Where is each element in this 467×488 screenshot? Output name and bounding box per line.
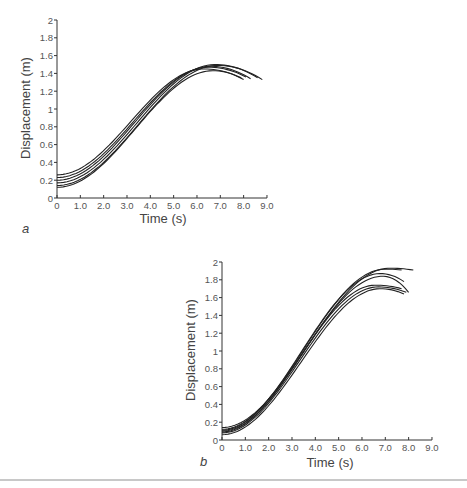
x-tick-label: 6.0 xyxy=(190,200,203,211)
y-tick-label: 1.8 xyxy=(40,32,53,43)
y-tick-label: 1 xyxy=(213,346,218,357)
x-tick-label: 8.0 xyxy=(237,200,250,211)
chart-a: 01.02.03.04.05.06.07.08.09.000.20.40.60.… xyxy=(18,15,274,237)
data-series-line xyxy=(222,268,413,427)
x-tick-label: 3.0 xyxy=(120,200,133,211)
x-tick-label: 2.0 xyxy=(262,442,275,453)
data-series-line xyxy=(222,274,404,431)
y-tick-label: 1 xyxy=(48,104,53,115)
y-tick-label: 1.6 xyxy=(205,292,218,303)
y-tick-label: 0.4 xyxy=(40,157,53,168)
panel-label: b xyxy=(200,454,207,469)
data-series-line xyxy=(222,269,402,429)
x-axis-title: Time (s) xyxy=(139,211,186,226)
x-axis-title: Time (s) xyxy=(306,455,353,470)
x-tick-label: 0 xyxy=(54,200,59,211)
x-tick-label: 5.0 xyxy=(332,442,345,453)
x-tick-label: 0 xyxy=(219,442,224,453)
data-series-line xyxy=(57,65,262,185)
y-tick-label: 0.2 xyxy=(40,175,53,186)
data-series-line xyxy=(222,285,402,432)
data-series-line xyxy=(57,71,244,188)
data-series-line xyxy=(222,289,404,435)
figure-canvas: 01.02.03.04.05.06.07.08.09.000.20.40.60.… xyxy=(0,0,467,488)
x-tick-label: 7.0 xyxy=(379,442,392,453)
x-tick-label: 9.0 xyxy=(425,442,438,453)
x-tick-label: 9.0 xyxy=(260,200,273,211)
y-tick-label: 0.6 xyxy=(205,381,218,392)
y-tick-label: 1.2 xyxy=(40,86,53,97)
data-series-line xyxy=(222,287,406,433)
y-tick-label: 0 xyxy=(213,435,218,446)
x-tick-label: 4.0 xyxy=(309,442,322,453)
chart-b: 01.02.03.04.05.06.07.08.09.000.20.40.60.… xyxy=(183,257,439,471)
data-series-line xyxy=(57,66,251,180)
y-tick-label: 2 xyxy=(213,257,218,268)
y-tick-label: 1.8 xyxy=(205,274,218,285)
y-axis-title: Displacement (m) xyxy=(18,57,33,159)
x-tick-label: 1.0 xyxy=(239,442,252,453)
x-tick-label: 5.0 xyxy=(167,200,180,211)
x-tick-label: 1.0 xyxy=(74,200,87,211)
data-series-line xyxy=(57,65,258,183)
y-axis-title: Displacement (m) xyxy=(183,299,198,401)
y-tick-label: 1.6 xyxy=(40,50,53,61)
y-tick-label: 1.4 xyxy=(40,68,53,79)
y-tick-label: 0 xyxy=(48,193,53,204)
data-series-line xyxy=(57,69,241,175)
y-tick-label: 0.8 xyxy=(40,121,53,132)
y-tick-label: 0.4 xyxy=(205,399,218,410)
x-tick-label: 4.0 xyxy=(144,200,157,211)
y-tick-label: 0.8 xyxy=(205,363,218,374)
y-tick-label: 0.2 xyxy=(205,417,218,428)
x-tick-label: 6.0 xyxy=(355,442,368,453)
y-tick-label: 1.2 xyxy=(205,328,218,339)
data-series-line xyxy=(57,67,246,177)
x-tick-label: 3.0 xyxy=(285,442,298,453)
x-tick-label: 2.0 xyxy=(97,200,110,211)
y-tick-label: 2 xyxy=(48,15,53,26)
y-tick-label: 1.4 xyxy=(205,310,218,321)
x-tick-label: 7.0 xyxy=(214,200,227,211)
panel-label: a xyxy=(22,221,29,236)
y-tick-label: 0.6 xyxy=(40,139,53,150)
data-series-line xyxy=(222,276,409,431)
bottom-divider xyxy=(0,479,467,481)
x-tick-label: 8.0 xyxy=(402,442,415,453)
